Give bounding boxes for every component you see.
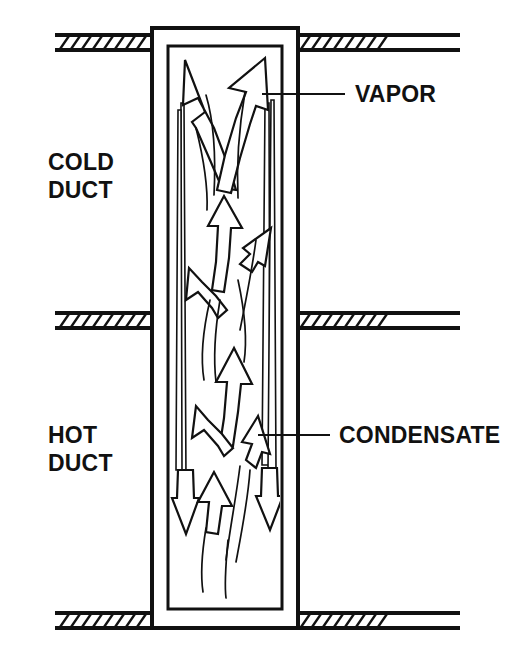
vapor-callout-label: VAPOR — [355, 81, 436, 107]
hot-duct-label-line1: HOT — [48, 422, 97, 448]
heat-pipe-tube — [152, 28, 298, 628]
cold-duct-label-line2: DUCT — [48, 177, 113, 203]
cold-duct-label-line1: COLD — [48, 149, 114, 175]
hot-duct-label-line2: DUCT — [48, 450, 113, 476]
heat-pipe-diagram: COLD DUCT HOT DUCT VAPOR CONDENSATE — [0, 0, 519, 653]
condensate-callout-label: CONDENSATE — [339, 422, 500, 448]
diagram-canvas: COLD DUCT HOT DUCT VAPOR CONDENSATE — [0, 0, 519, 653]
